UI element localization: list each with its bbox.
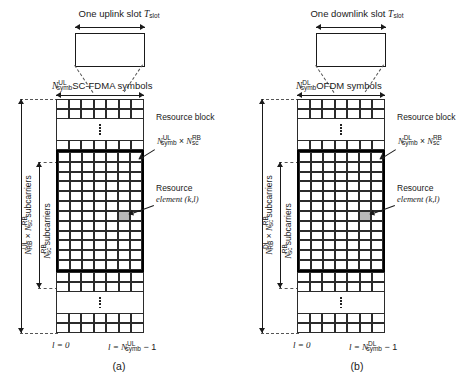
grid-cell (82, 260, 94, 270)
resource-element-text-line1: Resource (397, 183, 439, 194)
grid-cell (58, 201, 70, 211)
grid-cell (335, 191, 347, 201)
grid-cell (58, 162, 70, 172)
grid-cell (82, 201, 94, 211)
grid-cell (299, 191, 311, 201)
resource-block-label-uplink: Resource block (156, 112, 215, 123)
grid-cell (335, 313, 348, 323)
grid-cell (131, 109, 144, 119)
bottom-left-text: l = 0 (52, 340, 70, 350)
grid-cell (131, 282, 144, 292)
outer-axis-top-dash-uplink (20, 99, 58, 100)
grid-cell (310, 313, 323, 323)
grid-cell (359, 181, 371, 191)
grid-cell (311, 260, 323, 270)
grid-cell (106, 172, 118, 182)
grid-section-mid (56, 140, 144, 150)
grid-cell (359, 172, 371, 182)
grid-cell (119, 272, 132, 282)
grid-cell (372, 282, 385, 292)
grid-cell (299, 221, 311, 231)
grid-cell (69, 272, 82, 282)
grid-cell (81, 109, 94, 119)
grid-cell (119, 140, 132, 150)
slot-width-arrow-downlink (316, 24, 386, 31)
grid-cell (94, 162, 106, 172)
panel-uplink: One uplink slot Tslot NULsymbSC-FDMA sym… (0, 0, 238, 389)
bottom-left-text: l = 0 (293, 340, 311, 350)
grid-cell (56, 282, 69, 292)
outer-axis-bottom-dash-uplink (20, 333, 58, 334)
grid-cell (56, 323, 69, 333)
grid-cell (347, 250, 359, 260)
resource-block-label-downlink: Resource block (397, 112, 456, 123)
grid-cell (335, 272, 348, 282)
grid-cell (69, 99, 82, 109)
bottom-right-sub: symb (366, 345, 382, 352)
grid-cell (335, 140, 348, 150)
grid-cell (359, 231, 371, 241)
grid-section-top (56, 99, 144, 119)
grid-cell (82, 181, 94, 191)
grid-cell (118, 152, 130, 162)
grid-cell (347, 99, 360, 109)
grid-cell (94, 181, 106, 191)
grid-cell (311, 162, 323, 172)
grid-section-after-rb (297, 272, 385, 292)
grid-cell (360, 272, 373, 282)
grid-cell (56, 140, 69, 150)
grid-cell (299, 201, 311, 211)
grid-cell (130, 221, 142, 231)
grid-cell (299, 181, 311, 191)
grid-cell (94, 191, 106, 201)
grid-cell (82, 162, 94, 172)
grid-cell (323, 191, 335, 201)
grid-cell (94, 282, 107, 292)
grid-section-after-rb (56, 272, 144, 292)
grid-cell (58, 152, 70, 162)
grid-cell (94, 221, 106, 231)
grid-cell (82, 152, 94, 162)
outer-axis-top-dash-downlink (261, 99, 299, 100)
grid-cell (58, 221, 70, 231)
resource-element-text-line1: Resource (156, 183, 198, 194)
grid-cell (347, 282, 360, 292)
slot-width-arrow-uplink (75, 24, 145, 31)
grid-cell (81, 313, 94, 323)
slot-title-uplink: One uplink slot Tslot (0, 8, 238, 19)
symbols-label-text: OFDM symbols (316, 80, 381, 91)
grid-cell (335, 240, 347, 250)
subfigure-caption-a: (a) (0, 360, 238, 372)
rb-size-sub2: sc (192, 139, 199, 146)
grid-cell (118, 250, 130, 260)
grid-cell (335, 162, 347, 172)
grid-cell (372, 140, 385, 150)
subfigure-caption-b: (b) (238, 360, 476, 372)
grid-cell (69, 109, 82, 119)
rb-size-sub1: symb (161, 139, 177, 146)
grid-cell (94, 211, 106, 221)
outer-axis-n2: N (23, 225, 33, 231)
grid-cell (323, 201, 335, 211)
rb-size-sub2: sc (433, 139, 440, 146)
rb-size-sub1: symb (402, 139, 418, 146)
grid-cell (70, 152, 82, 162)
grid-cell (311, 250, 323, 260)
vertical-ellipsis-top (56, 119, 144, 139)
grid-cell (119, 99, 132, 109)
grid-cell (323, 231, 335, 241)
grid-cell (94, 109, 107, 119)
grid-cell (359, 250, 371, 260)
grid-cell (118, 172, 130, 182)
bottom-right-label-downlink: l = NDLsymb − 1 (349, 340, 397, 352)
symbols-label-downlink: NDLsymbOFDM symbols (296, 79, 382, 91)
grid-cell (69, 323, 82, 333)
grid-cell (94, 201, 106, 211)
grid-cell (82, 191, 94, 201)
grid-cell (347, 172, 359, 182)
resource-block-size-uplink: NULsymb × NRBsc (157, 134, 198, 147)
grid-cell (299, 260, 311, 270)
symbols-label-subscript: symb (57, 84, 73, 91)
grid-cell (347, 162, 359, 172)
grid-cell (297, 272, 310, 282)
